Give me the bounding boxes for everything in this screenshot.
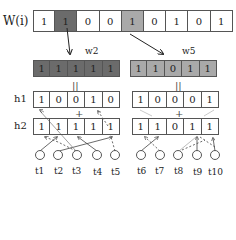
h1-cell: 1	[132, 91, 149, 108]
term-label: t5	[111, 168, 120, 177]
w5-h2-vector: 1 1 0 1 1	[132, 118, 219, 135]
w5-cell: 1	[182, 60, 199, 77]
term-label: t8	[174, 167, 183, 176]
h2-cell: 1	[132, 118, 149, 135]
w5-cell: 1	[200, 60, 217, 77]
h2-cell: 1	[184, 118, 201, 135]
h2-cell: 1	[202, 118, 219, 135]
h1-cell: 1	[202, 91, 219, 108]
w5-h1-vector: 1 0 0 0 1	[132, 91, 219, 108]
h1-cell: 1	[33, 91, 50, 108]
h1-cell: 0	[68, 91, 85, 108]
term-label: t3	[72, 167, 81, 176]
w2-cell: 1	[33, 60, 50, 77]
w2-cell: 1	[50, 60, 67, 77]
w2-cell: 1	[103, 60, 120, 77]
w2-cell: 1	[85, 60, 102, 77]
term-label: t7	[155, 167, 164, 176]
h1-cell: 1	[85, 91, 102, 108]
h2-cell: 1	[33, 118, 50, 135]
h2-cell: 1	[103, 118, 120, 135]
w5-cell: 1	[130, 60, 147, 77]
h2-cell: 1	[85, 118, 102, 135]
h1-label: h1	[14, 94, 27, 104]
w5-expanded-vector: 1 1 0 1 1	[130, 60, 217, 77]
w2-h2-vector: 1 1 1 1 1	[33, 118, 120, 135]
h1-cell: 0	[149, 91, 166, 108]
h1-cell: 0	[103, 91, 120, 108]
h1-cell: 0	[184, 91, 201, 108]
w5-cell: 1	[147, 60, 164, 77]
term-label: t6	[137, 167, 146, 176]
w2-label: w2	[85, 47, 98, 56]
w2-expanded-vector: 1 1 1 1 1	[33, 60, 120, 77]
h1-cell: 0	[167, 91, 184, 108]
term-label: t2	[54, 167, 63, 176]
term-label: t1	[35, 167, 44, 176]
h2-cell: 1	[68, 118, 85, 135]
w5-cell: 0	[165, 60, 182, 77]
w2-h1-vector: 1 0 0 1 0	[33, 91, 120, 108]
h1-cell: 0	[50, 91, 67, 108]
w2-cell: 1	[68, 60, 85, 77]
w5-label: w5	[182, 47, 195, 56]
h2-cell: 0	[167, 118, 184, 135]
h2-cell: 1	[149, 118, 166, 135]
h2-label: h2	[14, 121, 27, 131]
term-label: t10	[208, 168, 223, 177]
w5-equals: ||	[175, 81, 182, 91]
term-label: t4	[93, 168, 102, 177]
h2-cell: 1	[50, 118, 67, 135]
w2-equals: ||	[72, 81, 79, 91]
term-label: t9	[193, 168, 202, 177]
